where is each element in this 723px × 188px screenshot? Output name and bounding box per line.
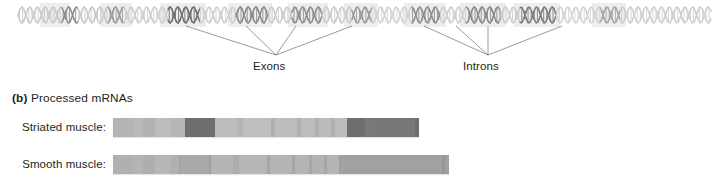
mrna-segment [155, 155, 171, 174]
gene-dna-figure [0, 0, 723, 82]
mrna-segment [327, 155, 339, 174]
mrna-segment [369, 118, 415, 137]
mrna-segment [319, 118, 331, 137]
mrna-segment [113, 118, 133, 137]
dna-double-helix-icon [0, 0, 723, 82]
mrna-segment [133, 155, 143, 174]
mrna-segment [143, 155, 155, 174]
smooth-muscle-label-holder: Smooth muscle: [0, 155, 106, 175]
mrna-segment [133, 118, 143, 137]
mrna-segment [445, 155, 449, 174]
mrna-segment [347, 118, 365, 137]
striated-muscle-label-holder: Striated muscle: [0, 118, 106, 138]
mrna-segment [171, 118, 185, 137]
panel-b-heading: (b) Processed mRNAs [12, 91, 133, 105]
panel-b-letter: (b) [12, 91, 28, 105]
mrna-segment [239, 155, 267, 174]
mrna-segment [185, 118, 215, 137]
mrna-segment [211, 155, 233, 174]
panel-b-title: Processed mRNAs [31, 91, 133, 105]
mrna-segment [143, 118, 155, 137]
mrna-segment [301, 118, 315, 137]
striated-muscle-mrna-bar [113, 118, 419, 137]
introns-label: Introns [463, 60, 499, 73]
mrna-segment [171, 155, 179, 174]
mrna-segment [312, 155, 324, 174]
mrna-segment [275, 118, 297, 137]
mrna-segment [415, 118, 419, 137]
mrna-segment [342, 155, 442, 174]
mrna-segment [113, 155, 133, 174]
mrna-segment [243, 118, 271, 137]
mrna-segment [270, 155, 292, 174]
mrna-segment [215, 118, 237, 137]
striated-muscle-label: Striated muscle: [6, 120, 106, 134]
smooth-muscle-label: Smooth muscle: [6, 157, 106, 171]
smooth-muscle-mrna-bar [113, 155, 449, 174]
mrna-segment [181, 155, 209, 174]
mrna-segment [155, 118, 171, 137]
exons-label: Exons [253, 60, 285, 73]
mrna-segment [335, 118, 347, 137]
mrna-segment [295, 155, 309, 174]
